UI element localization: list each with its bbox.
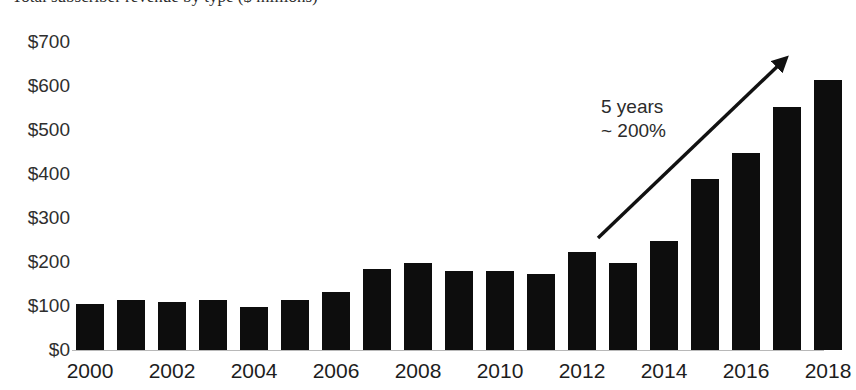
bar-2018 [814,80,842,350]
bar-2016 [732,153,760,350]
growth-callout-line1: 5 years [601,95,666,119]
bar-2005 [281,300,309,350]
x-axis-tick-2000: 2000 [55,356,125,386]
x-axis-tick-2012: 2012 [547,356,617,386]
bar-2000 [76,304,104,351]
bar-2009 [445,271,473,350]
x-axis-tick-2016: 2016 [711,356,781,386]
y-axis-tick-300: $300 [0,208,70,227]
bar-2017 [773,107,801,350]
growth-callout: 5 years ~ 200% [601,95,666,143]
y-axis-tick-700: $700 [0,32,70,51]
bar-2004 [240,307,268,350]
bar-2013 [609,263,637,350]
bar-2007 [363,269,391,350]
bar-2003 [199,300,227,350]
x-axis-tick-2004: 2004 [219,356,289,386]
x-axis: 2000 2002 2004 2006 2008 2010 2012 2014 … [70,356,829,390]
bar-2008 [404,263,432,350]
x-axis-tick-2002: 2002 [137,356,207,386]
x-axis-tick-2014: 2014 [629,356,699,386]
y-axis-tick-500: $500 [0,120,70,139]
x-axis-tick-2018: 2018 [793,356,856,386]
bar-2012 [568,252,596,350]
bar-2014 [650,241,678,350]
x-axis-tick-2010: 2010 [465,356,535,386]
x-axis-baseline [72,350,824,351]
bar-2006 [322,292,350,350]
bar-2015 [691,179,719,350]
x-axis-tick-2008: 2008 [383,356,453,386]
y-axis-tick-200: $200 [0,252,70,271]
bar-2011 [527,274,555,350]
y-axis-tick-400: $400 [0,164,70,183]
plot-area [70,0,829,390]
bar-2010 [486,271,514,350]
y-axis-tick-100: $100 [0,296,70,315]
x-axis-tick-2006: 2006 [301,356,371,386]
growth-callout-line2: ~ 200% [601,119,666,143]
y-axis: $700 $600 $500 $400 $300 $200 $100 $0 [0,0,70,390]
bar-2002 [158,302,186,350]
y-axis-tick-600: $600 [0,76,70,95]
bar-2001 [117,300,145,350]
